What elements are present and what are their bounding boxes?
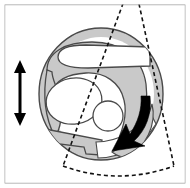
small-round-chamber [93, 101, 123, 131]
figure-root [0, 0, 190, 188]
diagram-canvas [0, 0, 190, 188]
double-arrow-shaft [19, 66, 22, 120]
